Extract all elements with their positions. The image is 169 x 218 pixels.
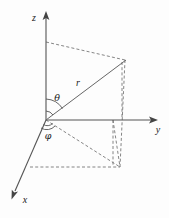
diagram-canvas: z y x r θ φ [0, 0, 169, 218]
theta-angle-inner-arc [46, 111, 53, 115]
x-axis-label: x [22, 194, 28, 205]
angle-arcs-group [41, 99, 63, 130]
dashed-point-vertical-drop [120, 60, 125, 167]
radius-vector-line [46, 60, 126, 120]
x-axis-arrowhead [12, 190, 19, 200]
construction-lines-group [30, 42, 125, 167]
radius-label: r [76, 77, 80, 88]
radius-vector-group [46, 60, 126, 120]
dashed-y-to-projection [113, 120, 120, 167]
axes-group [12, 11, 159, 200]
spherical-coordinates-figure: z y x r θ φ [0, 0, 169, 218]
z-axis-label: z [31, 12, 36, 23]
y-axis-label: y [155, 124, 161, 135]
x-axis-line [15, 120, 46, 191]
polar-angle-label: θ [54, 92, 60, 103]
azimuth-angle-label: φ [45, 130, 52, 141]
dashed-z-level-to-point [46, 42, 125, 60]
dashed-projection-radius [46, 120, 120, 167]
